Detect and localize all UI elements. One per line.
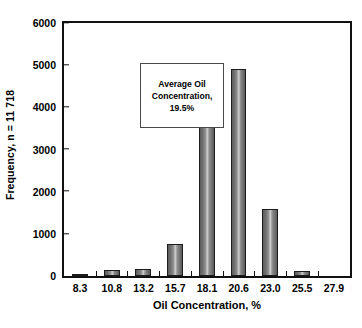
y-axis-tick-label: 4000 [33,101,56,113]
bar [294,271,310,276]
x-axis-tick-label: 23.0 [260,282,280,294]
y-axis-tick-label: 3000 [33,144,56,156]
x-axis-tick-label: 18.1 [197,282,217,294]
x-axis-tick-label: 25.5 [292,282,312,294]
bar [262,209,278,276]
x-axis-tick-label: 20.6 [229,282,249,294]
x-axis-tick-label: 15.7 [165,282,185,294]
plot-area: Average Oil Concentration, 19.5% [62,21,352,278]
x-axis-title: Oil Concentration, % [62,299,352,311]
x-axis-tick-label: 10.8 [102,282,122,294]
bar [72,274,88,276]
x-axis-tick-label: 8.3 [73,282,88,294]
x-axis-tick-labels: 8.310.813.215.718.120.623.025.527.9 [62,282,352,298]
oil-concentration-histogram-figure: Frequency, n = 11 718 010002000300040005… [0,0,362,328]
y-axis-title: Frequency, n = 11 718 [0,0,20,290]
bars-layer [64,23,350,276]
average-oil-concentration-annotation: Average Oil Concentration, 19.5% [140,63,224,128]
y-axis-tick-label: 0 [50,270,56,282]
x-axis-tick-label: 27.9 [324,282,344,294]
bar [231,69,247,276]
annotation-line-1: Average Oil [158,78,205,90]
bar [104,270,120,276]
y-axis-tick-label: 6000 [33,17,56,29]
x-axis-tick-label: 13.2 [133,282,153,294]
bar [199,105,215,276]
y-axis-tick-label: 2000 [33,186,56,198]
annotation-line-3: 19.5% [170,102,194,114]
y-axis-tick-label: 1000 [33,228,56,240]
y-axis-tick-labels: 0100020003000400050006000 [18,14,60,284]
y-axis-tick-label: 5000 [33,59,56,71]
y-axis-title-text: Frequency, n = 11 718 [4,90,16,200]
annotation-line-2: Concentration, [152,90,213,102]
bar [135,269,151,276]
bar [167,244,183,276]
